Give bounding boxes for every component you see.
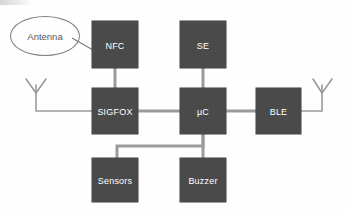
wire-mcu-sensors [117, 134, 203, 158]
block-ble[interactable]: BLE [256, 88, 301, 134]
antenna-label-text: Antenna [27, 31, 62, 42]
antenna-right-icon [301, 79, 332, 111]
block-sigfox-label: SIGFOX [97, 107, 132, 117]
block-sensors[interactable]: Sensors [92, 158, 138, 202]
block-mcu[interactable]: µC [180, 88, 226, 134]
block-se-label: SE [197, 40, 209, 50]
block-sigfox[interactable]: SIGFOX [92, 88, 138, 134]
antenna-label-bubble: Antenna [10, 16, 80, 56]
block-buzzer-label: Buzzer [188, 176, 217, 186]
antenna-left-icon [26, 79, 92, 111]
diagram-canvas: Antenna NFC SE SIGFOX µC BLE Sensors Buz… [0, 0, 347, 213]
block-se[interactable]: SE [180, 21, 226, 68]
block-nfc[interactable]: NFC [92, 21, 138, 68]
block-buzzer[interactable]: Buzzer [180, 158, 226, 202]
block-sensors-label: Sensors [98, 176, 132, 186]
block-nfc-label: NFC [105, 40, 124, 50]
block-mcu-label: µC [197, 107, 209, 117]
block-ble-label: BLE [270, 107, 288, 117]
